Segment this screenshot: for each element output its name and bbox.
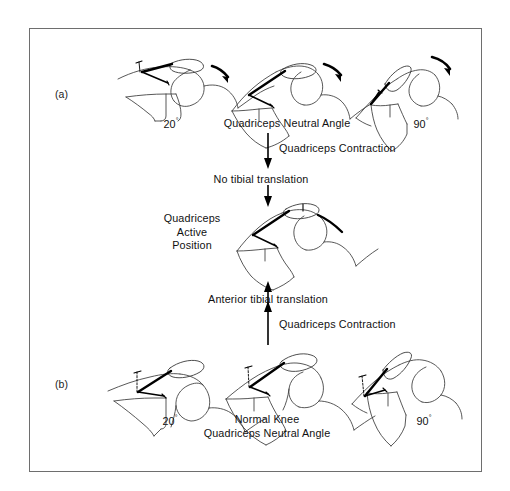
caption-b-90-value: 90 xyxy=(416,415,428,427)
knee-center-active xyxy=(237,204,378,290)
knee-a-90 xyxy=(356,57,458,151)
caption-b-20-value: 20 xyxy=(162,415,174,427)
flow-label-no-tibial-translation: No tibial translation xyxy=(214,173,309,185)
caption-a-90-value: 90 xyxy=(413,118,425,130)
flow-arrow-top-2 xyxy=(264,185,272,207)
caption-b-line-2: Quadriceps Neutral Angle xyxy=(177,427,357,441)
caption-b-90: 90° xyxy=(416,414,431,427)
flow-label-quadriceps-contraction-bottom: Quadriceps Contraction xyxy=(279,318,396,330)
center-label-quadriceps-active-position: Quadriceps Active Position xyxy=(137,212,247,253)
panel-letter-b: (b) xyxy=(55,378,68,390)
panel-letter-a: (a) xyxy=(55,88,68,100)
caption-a-90: 90° xyxy=(413,117,428,130)
center-label-line-1: Quadriceps xyxy=(137,212,247,226)
center-label-line-3: Position xyxy=(137,239,247,253)
caption-a-20: 20° xyxy=(163,117,178,130)
degree-symbol: ° xyxy=(176,117,179,124)
center-label-line-2: Active xyxy=(137,226,247,240)
flow-label-anterior-tibial-translation: Anterior tibial translation xyxy=(208,293,328,305)
knee-b-90 xyxy=(352,352,462,446)
caption-b-line-1: Normal Knee xyxy=(177,413,357,427)
caption-a-20-value: 20 xyxy=(163,118,175,130)
figure-root: (a) (b) 20° Quadriceps Neutral Angle 90°… xyxy=(0,0,510,491)
degree-symbol: ° xyxy=(426,117,429,124)
degree-symbol: ° xyxy=(429,414,432,421)
caption-b-normal-knee: Normal Knee Quadriceps Neutral Angle xyxy=(177,413,357,440)
knee-a-neutral xyxy=(232,64,371,148)
flow-arrow-top xyxy=(264,133,272,169)
flow-arrow-bottom-2 xyxy=(264,301,272,345)
caption-b-20: 20° xyxy=(162,414,177,427)
caption-a-neutral: Quadriceps Neutral Angle xyxy=(224,117,351,129)
flow-label-quadriceps-contraction-top: Quadriceps Contraction xyxy=(279,142,396,154)
